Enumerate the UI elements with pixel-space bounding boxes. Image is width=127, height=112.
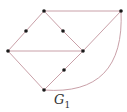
graph-label: G1 <box>54 92 70 110</box>
graph-label-subscript: 1 <box>64 100 70 110</box>
edge-C-E <box>8 51 44 90</box>
node-D <box>81 49 85 53</box>
node-B <box>119 9 123 13</box>
edge-E-M3 <box>44 70 64 90</box>
graph-label-name: G <box>54 92 64 107</box>
node-C <box>6 49 10 53</box>
node-A <box>42 9 46 13</box>
node-M3 <box>62 68 66 72</box>
node-E <box>42 88 46 92</box>
node-M2 <box>61 29 65 33</box>
edge-A-M1 <box>26 11 44 31</box>
edge-A-M2 <box>44 11 63 31</box>
edge-M2-D <box>63 31 83 51</box>
edge-M3-D <box>64 51 83 70</box>
graph-edges <box>8 11 121 90</box>
node-M1 <box>24 29 28 33</box>
edge-D-B <box>83 11 121 51</box>
edge-M1-C <box>8 31 26 51</box>
